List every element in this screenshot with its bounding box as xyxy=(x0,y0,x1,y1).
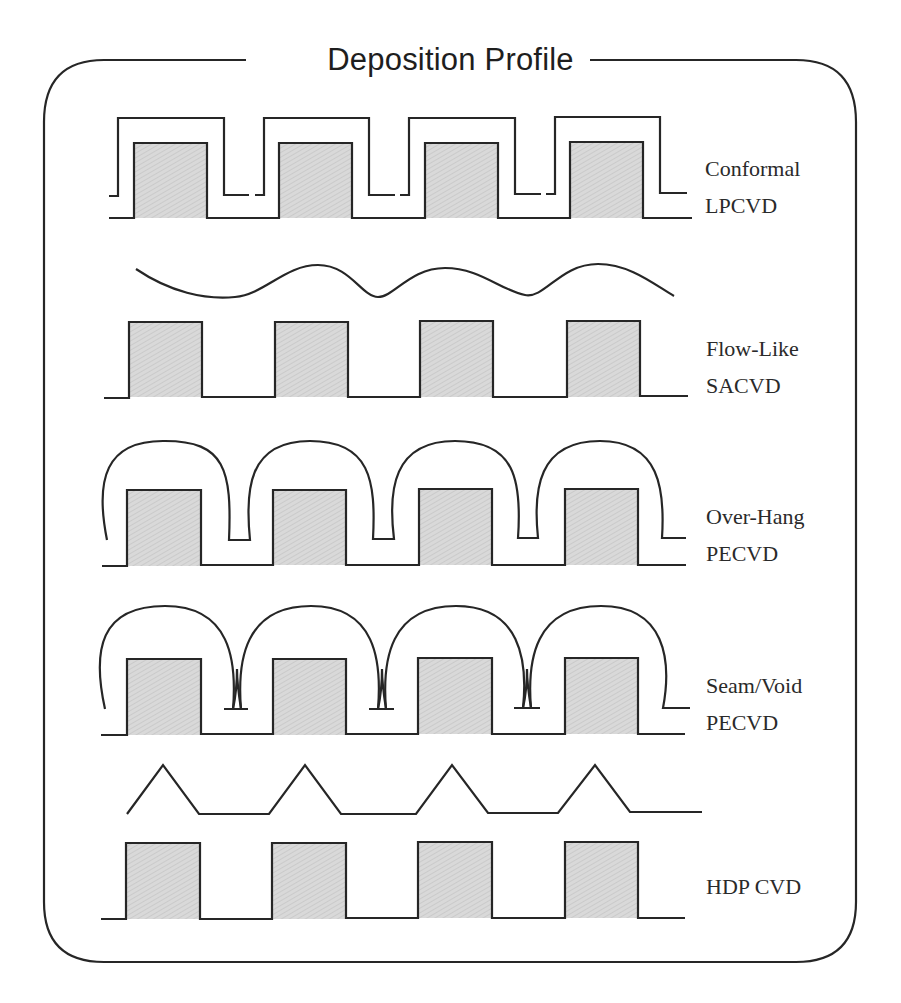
row-flow-like xyxy=(104,264,688,398)
label-line-1: HDP CVD xyxy=(706,868,801,905)
label-line-2: PECVD xyxy=(706,535,805,572)
label-conformal: Conformal LPCVD xyxy=(705,150,800,224)
label-line-2: SACVD xyxy=(706,367,799,404)
substrate-blocks xyxy=(127,489,638,566)
row-seam-void xyxy=(100,606,690,735)
deposition-profile-diagram: Deposition Profile Conformal LPCVD Flow-… xyxy=(0,0,901,1003)
substrate-blocks xyxy=(134,142,643,218)
substrate-blocks xyxy=(129,321,640,397)
diagram-title: Deposition Profile xyxy=(0,42,901,78)
label-line-1: Seam/Void xyxy=(706,667,802,704)
label-over-hang: Over-Hang PECVD xyxy=(706,498,805,572)
substrate-blocks xyxy=(126,842,638,919)
label-seam-void: Seam/Void PECVD xyxy=(706,667,802,741)
row-hdp xyxy=(101,765,702,919)
row-conformal xyxy=(109,117,692,218)
label-flow-like: Flow-Like SACVD xyxy=(706,330,799,404)
title-text: Deposition Profile xyxy=(311,42,590,77)
wavy-film xyxy=(136,264,674,298)
triangular-film xyxy=(127,765,702,814)
label-hdp: HDP CVD xyxy=(706,868,801,905)
label-line-1: Conformal xyxy=(705,150,800,187)
label-line-2: PECVD xyxy=(706,704,802,741)
label-line-1: Over-Hang xyxy=(706,498,805,535)
label-line-2: LPCVD xyxy=(705,187,800,224)
label-line-1: Flow-Like xyxy=(706,330,799,367)
row-over-hang xyxy=(102,441,686,566)
